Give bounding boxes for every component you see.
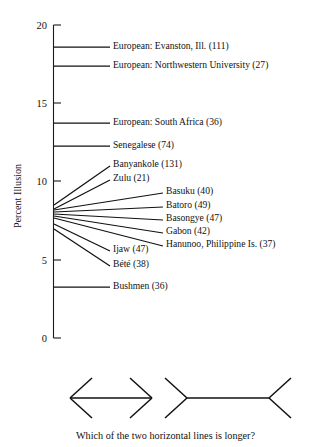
series-label-northwestern: European: Northwestern University (27) [113, 59, 268, 71]
chart-canvas: 20 15 10 5 0 Percent Illusion European: … [0, 0, 331, 447]
series-label-basongye: Basongye (47) [166, 212, 222, 224]
series-label-bete: Bété (38) [113, 258, 149, 270]
series-label-ijaw: Ijaw (47) [113, 243, 148, 255]
muller-lyer-left-figure [70, 378, 152, 418]
muller-lyer-right-figure [165, 378, 291, 418]
y-tick-label-15: 15 [37, 98, 48, 109]
leader-line-zulu [54, 180, 110, 209]
series-label-gabon: Gabon (42) [166, 225, 210, 237]
y-tick-label-10: 10 [37, 176, 48, 187]
series-label-zulu: Zulu (21) [113, 172, 150, 184]
y-tick-label-5: 5 [42, 255, 47, 266]
percent-illusion-figure: 20 15 10 5 0 Percent Illusion European: … [0, 0, 331, 447]
y-tick-label-0: 0 [42, 333, 47, 344]
series-label-hanunoo: Hanunoo, Philippine Is. (37) [166, 238, 276, 250]
series-label-banyankole: Banyankole (131) [113, 158, 182, 170]
illusion-question-caption: Which of the two horizontal lines is lon… [0, 430, 331, 441]
series-label-bushmen: Bushmen (36) [113, 280, 168, 292]
series-label-batoro: Batoro (49) [166, 199, 211, 211]
series-label-south-africa: European: South Africa (36) [113, 116, 222, 128]
series-label-basuku: Basuku (40) [166, 185, 213, 197]
leader-line-banyankole [54, 166, 110, 205]
y-tick-label-20: 20 [37, 20, 48, 31]
series-label-senegalese: Senegalese (74) [113, 139, 174, 151]
series-label-evanston: European: Evanston, Ill. (111) [113, 40, 229, 52]
y-axis-title: Percent Illusion [12, 164, 23, 228]
